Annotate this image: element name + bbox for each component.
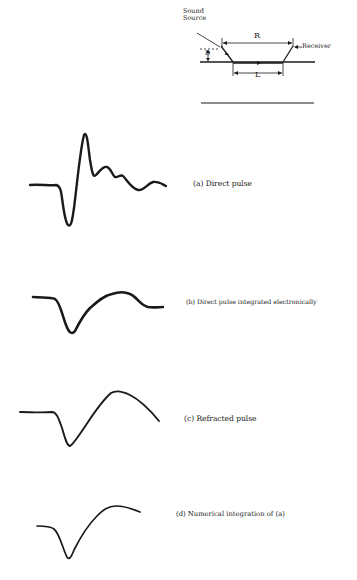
trace-d-numerical-integration <box>37 506 140 558</box>
caption-d: (d) Numerical integration of (a) <box>176 510 285 518</box>
l-arrow-right <box>278 71 282 75</box>
r-arrow-left <box>223 41 227 45</box>
caption-a: (a) Direct pulse <box>193 179 252 188</box>
sound-source-label-line2: Source <box>183 15 206 22</box>
caption-c: (c) Refracted pulse <box>184 414 257 423</box>
d-label: D <box>205 50 210 57</box>
source-leader-line <box>197 33 220 47</box>
trace-b-integrated-pulse <box>33 292 163 333</box>
receiver-arrow <box>294 45 298 49</box>
d-arrowhead-down <box>206 58 210 61</box>
r-label: R <box>254 31 260 40</box>
caption-b: (b) Direct pulse integrated electronical… <box>186 298 317 305</box>
l-label: L <box>255 70 260 79</box>
geometry-diagram <box>197 33 315 103</box>
trace-a-direct-pulse <box>30 134 166 225</box>
sound-source-label: Sound Source <box>183 8 206 22</box>
trace-c-refracted-pulse <box>20 391 159 446</box>
up-ray <box>283 46 293 62</box>
r-arrow-right <box>288 41 292 45</box>
l-arrow-left <box>234 71 238 75</box>
receiver-label: Receiver <box>302 43 331 50</box>
figure-canvas <box>0 0 357 580</box>
